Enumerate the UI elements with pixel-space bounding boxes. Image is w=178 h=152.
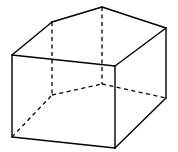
visible-edge-B-C: [52, 7, 102, 22]
pentagonal-prism-diagram: [0, 0, 178, 152]
visible-edge-E-A: [12, 55, 115, 66]
hidden-edge-B1-C1: [52, 84, 102, 95]
hidden-edges: [12, 7, 166, 137]
visible-edge-A-B: [12, 22, 52, 55]
visible-edge-C-D: [102, 7, 166, 28]
visible-edge-E1-D1: [115, 98, 166, 148]
hidden-edge-A1-B1: [12, 95, 52, 137]
hidden-edge-C1-D1: [102, 84, 166, 98]
visible-edges: [12, 7, 166, 148]
visible-edge-A1-E1: [12, 137, 115, 148]
visible-edge-D-E: [115, 28, 166, 66]
